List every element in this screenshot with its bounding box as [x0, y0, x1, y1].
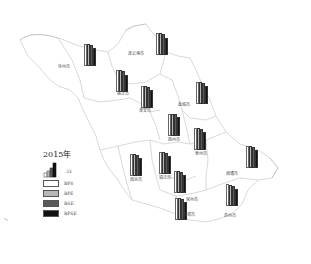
city-bar-group [246, 146, 258, 168]
legend: 2015年 .51 BPS BPE BSE BPSE [38, 145, 98, 225]
city-label: 无锡市 [183, 211, 195, 217]
city-bar-group [116, 70, 128, 92]
legend-swatch-bpse [43, 210, 59, 217]
bar-bpse [235, 189, 238, 206]
city-bar-group [174, 171, 186, 193]
city-bar-group [156, 33, 168, 55]
legend-swatch-bpe [43, 190, 59, 197]
city-label: 南京市 [130, 176, 142, 182]
bar-bpse [255, 150, 258, 168]
bar-bpse [183, 175, 186, 193]
legend-item-bpe: BPE [43, 188, 74, 198]
bar-bpse [93, 48, 96, 66]
legend-scale-icon [43, 162, 63, 178]
legend-item-bse: BSE [43, 198, 74, 208]
legend-scale-label: .51 [65, 169, 72, 174]
city-label: 常州市 [186, 196, 198, 202]
city-label: 淮安市 [139, 107, 151, 113]
bar-bpse [177, 117, 180, 136]
city-bar-group [168, 114, 180, 136]
city-label: 南通市 [226, 170, 238, 176]
legend-swatch-bps [43, 180, 59, 187]
city-bar-group [130, 154, 142, 176]
legend-swatch-bse [43, 200, 59, 207]
city-label: 宿迁市 [117, 90, 129, 96]
city-label: 苏州市 [224, 212, 236, 218]
city-bar-group [194, 128, 206, 150]
bar-bpse [150, 90, 153, 108]
city-label: 连云港市 [128, 50, 144, 56]
city-bar-group [196, 82, 208, 104]
city-label: 镇江市 [159, 174, 171, 180]
city-bar-group [159, 152, 171, 174]
city-bar-group [226, 184, 238, 206]
legend-title: 2015年 [43, 148, 71, 159]
bar-bpse [168, 156, 171, 174]
legend-item-bps: BPS [43, 178, 73, 188]
bar-bpse [165, 38, 168, 55]
bar-bpse [139, 158, 142, 176]
bar-bpse [203, 132, 206, 150]
city-label: 泰州市 [195, 150, 207, 156]
bar-bpse [205, 86, 208, 104]
legend-item-bpse: BPSE [43, 208, 77, 218]
city-bar-group [141, 86, 153, 108]
city-label: 盐城市 [178, 101, 190, 107]
city-bar-group [84, 44, 96, 66]
city-label: 扬州市 [168, 136, 180, 142]
city-label: 徐州市 [58, 63, 70, 69]
